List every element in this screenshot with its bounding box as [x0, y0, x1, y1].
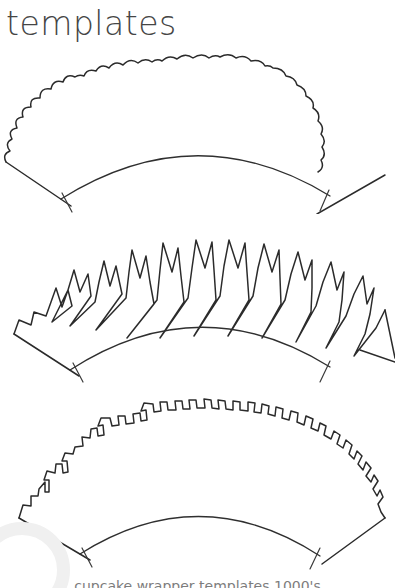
- right-radial-edge: [322, 518, 385, 564]
- left-registration-mark: [82, 548, 92, 567]
- inner-base-arc: [80, 516, 320, 556]
- inner-base-arc: [61, 156, 330, 199]
- jagged-outer-edge: [14, 240, 385, 356]
- left-radial-edge: [14, 334, 79, 376]
- scallop-outer-edge: [5, 55, 325, 172]
- template-scalloped-cloud-wrapper: [0, 44, 395, 214]
- page-title: templates: [6, 2, 177, 46]
- crenellated-outer-edge: [19, 399, 385, 518]
- template-jagged-crown-wrapper: [0, 210, 395, 392]
- footer-caption: cupcake wrapper templates 1000's: [0, 578, 395, 588]
- template-sheet-page: templates: [0, 0, 395, 588]
- right-radial-edge: [385, 310, 395, 358]
- right-radial-edge-lower: [360, 350, 395, 362]
- inner-base-arc: [70, 327, 330, 370]
